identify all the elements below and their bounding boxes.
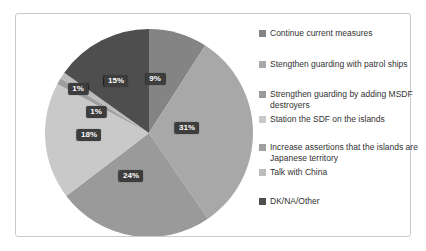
legend-swatch-icon — [259, 169, 266, 176]
legend-swatch-icon — [259, 198, 266, 205]
legend-label: Strengthen guarding by adding MSDF destr… — [270, 89, 419, 111]
chart-legend: Continue current measuresStengthen guard… — [259, 28, 419, 207]
legend-swatch-icon — [259, 144, 266, 151]
legend-item: Station the SDF on the islands — [259, 114, 419, 125]
pie-slice-label: 1% — [86, 106, 106, 118]
legend-label: Stengthen guarding with patrol ships — [270, 59, 419, 70]
legend-swatch-icon — [259, 91, 266, 98]
legend-item: Stengthen guarding with patrol ships — [259, 59, 419, 70]
legend-label: Continue current measures — [270, 28, 419, 39]
legend-item: DK/NA/Other — [259, 196, 419, 207]
pie-chart — [16, 14, 276, 236]
pie-slice-label: 18% — [77, 129, 101, 141]
legend-label: Talk with China — [270, 167, 419, 178]
pie-slice-label: 24% — [119, 170, 143, 182]
pie-slice-label: 31% — [175, 122, 199, 134]
legend-swatch-icon — [259, 116, 266, 123]
legend-label: Increase assertions that the islands are… — [270, 142, 419, 164]
legend-label: DK/NA/Other — [270, 196, 419, 207]
chart-frame: 9%31%24%18%1%1%15% Continue current meas… — [15, 13, 411, 237]
pie-slice-label: 15% — [104, 75, 128, 87]
legend-label: Station the SDF on the islands — [270, 114, 419, 125]
legend-item: Continue current measures — [259, 28, 419, 39]
legend-item: Strengthen guarding by adding MSDF destr… — [259, 89, 419, 111]
pie-slice-label: 9% — [145, 73, 165, 85]
legend-item: Increase assertions that the islands are… — [259, 142, 419, 164]
pie-chart-figure: 9%31%24%18%1%1%15% Continue current meas… — [0, 0, 426, 251]
legend-swatch-icon — [259, 61, 266, 68]
legend-item: Talk with China — [259, 167, 419, 178]
pie-slice-label: 1% — [68, 83, 88, 95]
legend-swatch-icon — [259, 30, 266, 37]
